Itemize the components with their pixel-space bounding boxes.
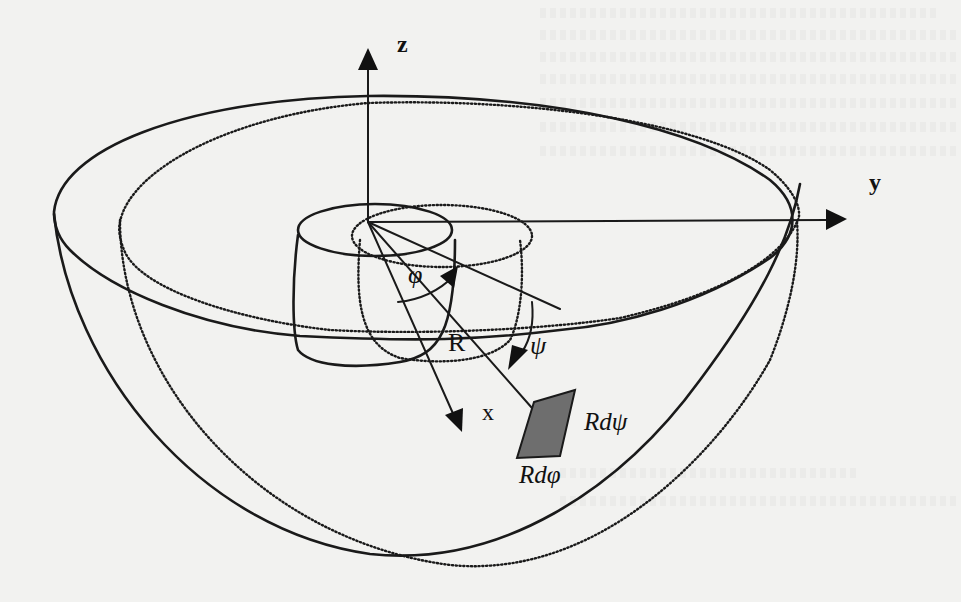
- phi-angle-label: φ: [408, 262, 422, 288]
- rdpsi-label: Rdψ: [584, 409, 627, 434]
- rdphi-label: Rdφ: [519, 462, 561, 487]
- radius-line: [368, 222, 532, 408]
- projection-line: [368, 222, 560, 309]
- y-axis-arrowhead: [826, 209, 847, 230]
- y-axis: [368, 220, 828, 222]
- z-axis-arrowhead: [358, 48, 378, 70]
- x-axis-arrowhead: [445, 408, 463, 432]
- hemisphere-figure: [0, 0, 961, 602]
- psi-angle-label: ψ: [530, 333, 546, 359]
- radius-label: R: [448, 330, 465, 356]
- diagram-canvas: z y x φ ψ R Rdψ Rdφ: [0, 0, 961, 602]
- x-axis-label: x: [482, 400, 494, 424]
- inner-bowl: [120, 220, 798, 566]
- outer-bowl: [54, 184, 800, 556]
- y-axis-label: y: [869, 170, 881, 194]
- small-dotted-cylinder-top: [352, 205, 532, 267]
- z-axis-label: z: [397, 32, 408, 56]
- small-cylinder-body: [294, 235, 456, 366]
- x-axis: [368, 222, 455, 418]
